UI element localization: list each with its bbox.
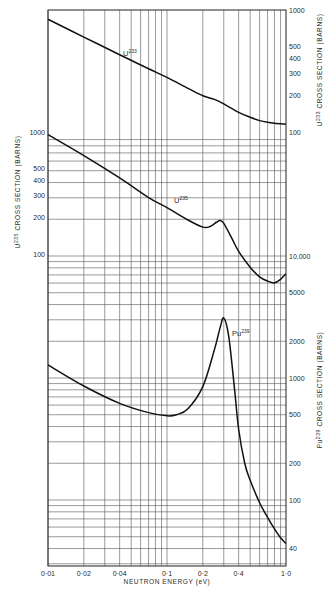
pu239-tick-label: 100 <box>289 497 301 504</box>
pu239-tick-label: 2000 <box>289 338 305 345</box>
cross-section-chart: 0·010·020·040·10·20·41·0 100050040030020… <box>0 0 331 593</box>
u235-curve-label: U235 <box>174 195 188 205</box>
u233-tick-label: 1000 <box>289 7 305 14</box>
u233-tick-label: 400 <box>289 55 301 62</box>
x-tick-label: 0·04 <box>113 570 127 577</box>
u235-tick-label: 500 <box>33 165 45 172</box>
u235-tick-label: 1000 <box>29 129 45 136</box>
x-tick-label: 0·1 <box>162 570 172 577</box>
x-axis-title: NEUTRON ENERGY (eV) <box>124 578 211 586</box>
pu239-tick-label: 500 <box>289 411 301 418</box>
x-tick-label: 0·01 <box>41 570 55 577</box>
x-tick-label: 0·4 <box>234 570 244 577</box>
y-axis-ticks: 1000500400300200100100050040030020010010… <box>29 7 310 553</box>
pu239-axis-title: Pu239 CROSS SECTION (BARNS) <box>315 332 325 449</box>
u233-tick-label: 300 <box>289 70 301 77</box>
u233-tick-label: 100 <box>289 129 301 136</box>
u233-axis-title: U233 CROSS SECTION (BARNS) <box>315 14 325 127</box>
pu239-tick-label: 1000 <box>289 375 305 382</box>
x-axis-ticks: 0·010·020·040·10·20·41·0 <box>41 570 291 577</box>
x-tick-label: 0·2 <box>198 570 208 577</box>
x-tick-label: 1·0 <box>281 570 291 577</box>
pu239-tick-label: 10,000 <box>289 253 311 260</box>
u235-axis-title: U235 CROSS SECTION (BARNS) <box>13 136 23 249</box>
u235-tick-label: 300 <box>33 192 45 199</box>
pu239-tick-label: 200 <box>289 460 301 467</box>
pu239-curve-label: Pu239 <box>232 328 250 338</box>
u233-curve-label: U233 <box>123 48 137 58</box>
u235-tick-label: 200 <box>33 214 45 221</box>
u235-tick-label: 400 <box>33 177 45 184</box>
u233-tick-label: 200 <box>289 92 301 99</box>
pu239-tick-label: 40 <box>289 545 297 552</box>
u235-tick-label: 100 <box>33 251 45 258</box>
pu239-tick-label: 5000 <box>289 289 305 296</box>
u233-tick-label: 500 <box>289 43 301 50</box>
x-tick-label: 0·02 <box>77 570 91 577</box>
